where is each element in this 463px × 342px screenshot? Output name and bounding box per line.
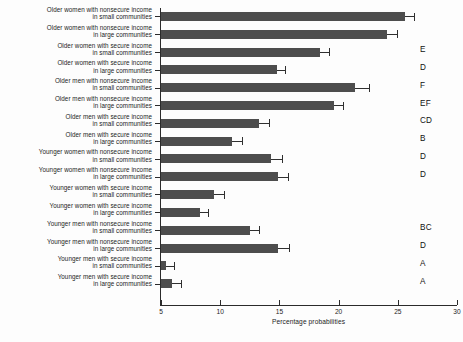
- bar-row-label-line2: in large communities: [0, 138, 152, 145]
- error-bar-cap: [343, 102, 344, 110]
- bar: [161, 83, 355, 92]
- bar-row-label: Younger women with secure incomein large…: [0, 202, 152, 216]
- error-bar-cap: [397, 30, 398, 38]
- error-bar-line: [387, 34, 396, 35]
- bar-row-label-line2: in small communities: [0, 262, 152, 269]
- error-bar-line: [278, 248, 289, 249]
- bar-row-label-line1: Younger women with nonsecure income: [0, 166, 152, 173]
- y-axis-tick: [155, 70, 160, 71]
- bar-row-label: Younger women with nonsecure incomein sm…: [0, 148, 152, 162]
- bar-row-label: Older women with nonsecure incomein larg…: [0, 24, 152, 38]
- bar-row-label-line2: in small communities: [0, 156, 152, 163]
- bar: [161, 137, 232, 146]
- bar: [161, 101, 334, 110]
- y-axis-tick: [155, 34, 160, 35]
- bar-row-label-line2: in large communities: [0, 209, 152, 216]
- bar-row-label: Younger women with nonsecure incomein la…: [0, 166, 152, 180]
- y-axis-tick: [155, 248, 160, 249]
- group-letter-annotation: EF: [420, 99, 431, 108]
- y-axis-tick: [155, 16, 160, 17]
- bar-row-label-line1: Younger men with nonsecure income: [0, 238, 152, 245]
- error-bar-line: [405, 16, 414, 17]
- error-bar-cap: [288, 173, 289, 181]
- bar-row-label-line2: in small communities: [0, 227, 152, 234]
- bar-row-label-line1: Older men with secure income: [0, 131, 152, 138]
- bar-row-label-line1: Older men with secure income: [0, 113, 152, 120]
- error-bar-line: [259, 123, 268, 124]
- x-axis-tick: [161, 300, 162, 305]
- error-bar-line: [232, 141, 241, 142]
- error-bar-cap: [181, 280, 182, 288]
- x-axis-title: Percentage probabilities: [160, 318, 457, 325]
- error-bar-line: [172, 283, 181, 284]
- error-bar-cap: [269, 119, 270, 127]
- group-letter-annotation: F: [420, 81, 425, 90]
- error-bar-cap: [369, 84, 370, 92]
- y-axis-tick: [155, 105, 160, 106]
- bar-row-label-line2: in small communities: [0, 13, 152, 20]
- error-bar-line: [278, 177, 287, 178]
- bar-row-label-line2: in large communities: [0, 67, 152, 74]
- x-axis-tick-label: 20: [324, 308, 354, 315]
- bar-chart: Older women with nonsecure incomein smal…: [0, 0, 463, 342]
- y-axis-tick: [155, 266, 160, 267]
- bar-row-label-line1: Older men with nonsecure income: [0, 95, 152, 102]
- bar-row-label-line2: in large communities: [0, 102, 152, 109]
- y-axis-tick: [155, 177, 160, 178]
- error-bar-cap: [289, 244, 290, 252]
- bar-row-label-line1: Older women with nonsecure income: [0, 24, 152, 31]
- bar-row-label: Younger men with nonsecure incomein larg…: [0, 238, 152, 252]
- error-bar-cap: [259, 226, 260, 234]
- bar-row-label: Younger men with nonsecure incomein smal…: [0, 220, 152, 234]
- bar-row-label: Older men with nonsecure incomein large …: [0, 95, 152, 109]
- error-bar-line: [277, 70, 285, 71]
- y-axis-tick: [155, 141, 160, 142]
- bar-row-label: Younger men with secure incomein small c…: [0, 255, 152, 269]
- bar-row-label-line2: in small communities: [0, 49, 152, 56]
- error-bar-cap: [329, 48, 330, 56]
- x-axis-tick: [398, 300, 399, 305]
- bar: [161, 172, 278, 181]
- bar: [161, 30, 387, 39]
- error-bar-cap: [285, 66, 286, 74]
- x-axis-tick: [339, 300, 340, 305]
- error-bar-cap: [208, 209, 209, 217]
- bar-row-label-line1: Younger women with nonsecure income: [0, 148, 152, 155]
- error-bar-cap: [174, 262, 175, 270]
- bar: [161, 154, 271, 163]
- bar: [161, 208, 200, 217]
- x-axis-tick-label: 15: [264, 308, 294, 315]
- error-bar-line: [320, 52, 329, 53]
- y-axis-tick: [155, 212, 160, 213]
- bar: [161, 226, 250, 235]
- bar-row-label-line1: Younger women with secure income: [0, 202, 152, 209]
- y-axis-tick: [155, 230, 160, 231]
- bar-row-label-line1: Younger men with secure income: [0, 255, 152, 262]
- bar-row-label-line1: Younger women with secure income: [0, 184, 152, 191]
- bar-row-label-line2: in large communities: [0, 31, 152, 38]
- bar-row-label-line2: in small communities: [0, 84, 152, 91]
- bar-row-label: Younger men with secure incomein large c…: [0, 273, 152, 287]
- x-axis-tick: [220, 300, 221, 305]
- bar: [161, 119, 259, 128]
- x-axis-tick-label: 30: [442, 308, 463, 315]
- y-axis-tick: [155, 194, 160, 195]
- x-axis-line: [160, 305, 457, 306]
- x-axis-tick-label: 10: [205, 308, 235, 315]
- group-letter-annotation: D: [420, 63, 426, 72]
- y-axis-tick: [155, 284, 160, 285]
- bar-row-label: Older men with nonsecure incomein small …: [0, 77, 152, 91]
- error-bar-cap: [282, 155, 283, 163]
- group-letter-annotation: CD: [420, 116, 432, 125]
- group-letter-annotation: E: [420, 45, 426, 54]
- bar-row-label: Older women with secure incomein small c…: [0, 42, 152, 56]
- bar-row-label: Older men with secure incomein small com…: [0, 113, 152, 127]
- error-bar-line: [166, 266, 174, 267]
- y-axis-tick: [155, 123, 160, 124]
- bar: [161, 48, 320, 57]
- bar-row-label-line1: Older women with secure income: [0, 42, 152, 49]
- group-letter-annotation: A: [420, 259, 426, 268]
- bar-row-label-line1: Older men with nonsecure income: [0, 77, 152, 84]
- error-bar-line: [355, 88, 369, 89]
- bar-row-label-line2: in small communities: [0, 120, 152, 127]
